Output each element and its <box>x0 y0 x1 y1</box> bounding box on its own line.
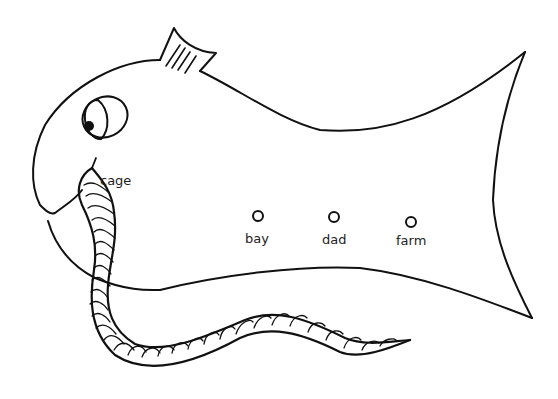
mouth-word-label: cage <box>100 174 131 187</box>
choice-radio-farm[interactable] <box>405 216 417 228</box>
choice-label-dad: dad <box>322 233 346 246</box>
worm-outline-left <box>79 168 410 366</box>
fish-pupil <box>84 121 94 131</box>
fish-belly-outline <box>160 267 532 318</box>
fish-back-outline <box>200 52 525 131</box>
fish-illustration <box>0 0 558 399</box>
choice-radio-dad[interactable] <box>328 211 340 223</box>
choice-label-bay: bay <box>245 232 269 245</box>
worksheet-canvas: cage bay dad farm <box>0 0 558 399</box>
fish-tail-outline <box>493 52 532 318</box>
dorsal-fin-lines <box>166 45 196 73</box>
worm-segments <box>84 183 396 357</box>
mouth-line <box>92 158 96 168</box>
dorsal-fin <box>160 28 216 71</box>
choice-label-farm: farm <box>396 234 426 247</box>
choice-radio-bay[interactable] <box>252 210 264 222</box>
